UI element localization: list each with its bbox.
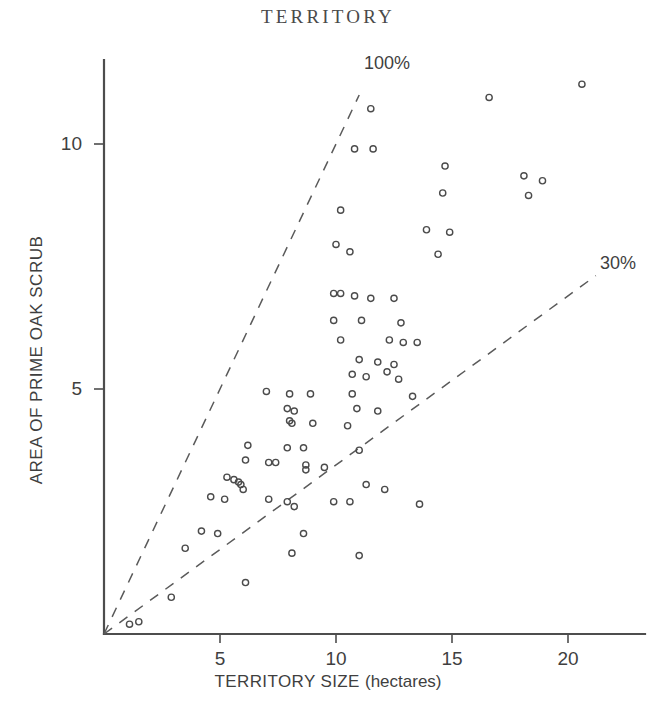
data-point [442,163,448,169]
data-point [347,249,353,255]
data-point [349,371,355,377]
reference-line-100-percent [104,95,359,634]
data-point [215,530,221,536]
data-point [363,374,369,380]
x-tick-label: 20 [557,648,578,670]
data-point [242,457,248,463]
reference-lines [104,95,596,634]
data-point [284,406,290,412]
data-point [358,317,364,323]
data-point [351,293,357,299]
data-point [136,619,142,625]
data-point [222,496,228,502]
data-point [321,464,327,470]
data-point [208,494,214,500]
data-point [440,190,446,196]
data-point [447,229,453,235]
data-point [300,445,306,451]
data-point [284,499,290,505]
data-point [375,408,381,414]
data-point [242,579,248,585]
data-point [525,192,531,198]
data-point [400,339,406,345]
data-point [356,357,362,363]
data-point [182,545,188,551]
data-point [486,94,492,100]
data-point [579,81,585,87]
data-point [416,501,422,507]
x-tick-label: 10 [325,648,346,670]
y-axis-title: AREA OF PRIME OAK SCRUB [27,180,47,540]
data-point [423,227,429,233]
data-point [356,553,362,559]
data-point [391,361,397,367]
data-point [375,359,381,365]
data-point [521,173,527,179]
data-point [245,442,251,448]
data-point [384,369,390,375]
data-point [349,391,355,397]
data-point [168,594,174,600]
x-axis-title-main: TERRITORY SIZE [214,672,359,691]
data-point [396,376,402,382]
reference-label-30-percent: 30% [600,253,636,274]
axis-ticks [94,144,568,643]
y-tick-label: 10 [42,133,82,155]
data-point [347,499,353,505]
data-point [287,391,293,397]
data-point [386,337,392,343]
data-point [409,393,415,399]
data-point [273,459,279,465]
data-point [338,207,344,213]
data-point [333,241,339,247]
data-point [354,406,360,412]
x-axis-title-unit: (hectares) [365,672,442,691]
data-point [263,388,269,394]
data-point [345,423,351,429]
plot-canvas [0,0,656,709]
data-point [368,295,374,301]
x-axis-title: TERRITORY SIZE (hectares) [0,672,656,692]
data-point [398,320,404,326]
data-point [539,178,545,184]
data-point [368,106,374,112]
y-tick-label: 5 [42,378,82,400]
data-point [338,290,344,296]
data-point [331,499,337,505]
data-point [307,391,313,397]
data-point [331,317,337,323]
data-point [126,621,132,627]
data-point [266,459,272,465]
data-point [289,550,295,556]
data-point [284,445,290,451]
data-point [331,290,337,296]
x-tick-label: 5 [215,648,226,670]
data-point [382,486,388,492]
data-point [198,528,204,534]
data-point [266,496,272,502]
reference-label-100-percent: 100% [364,53,410,74]
reference-line-30-percent [104,276,596,634]
data-point [351,146,357,152]
data-point [310,420,316,426]
data-points [126,81,585,627]
data-point [291,504,297,510]
x-tick-label: 15 [441,648,462,670]
data-point [370,146,376,152]
data-point [435,251,441,257]
data-point [291,408,297,414]
data-point [414,339,420,345]
data-point [338,337,344,343]
data-point [363,481,369,487]
data-point [224,474,230,480]
scatter-plot-figure: TERRITORY 5101520510 100% 30% TERRITORY … [0,0,656,709]
data-point [300,530,306,536]
data-point [391,295,397,301]
